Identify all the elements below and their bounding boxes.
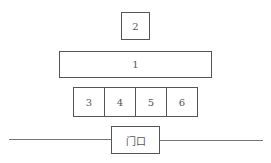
box-6: 6 [166,87,198,117]
box-5-label: 5 [148,97,154,108]
box-3-label: 3 [86,97,92,108]
door-box: 门口 [111,126,160,154]
box-2: 2 [121,12,150,40]
baseline-left [9,139,112,140]
box-1-label: 1 [132,59,138,70]
box-3: 3 [73,87,105,117]
box-5: 5 [135,87,167,117]
box-4: 4 [104,87,136,117]
box-6-label: 6 [179,97,185,108]
baseline-right [158,140,263,141]
box-4-label: 4 [117,97,123,108]
door-label: 门口 [126,133,146,148]
box-2-label: 2 [132,21,138,32]
box-1: 1 [59,51,212,78]
